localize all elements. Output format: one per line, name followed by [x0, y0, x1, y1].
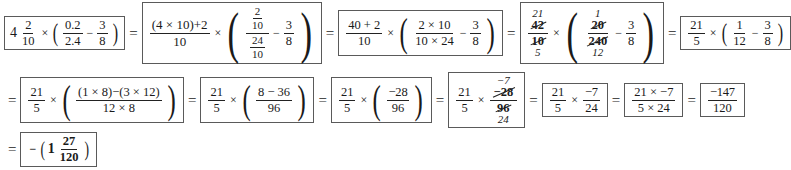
mixed-whole: 1 — [48, 142, 56, 156]
step-box-12: −147 120 — [700, 83, 745, 118]
equals-sign: = — [125, 26, 141, 41]
parenthesis-group: ( 8 − 36 96 ) — [240, 80, 309, 120]
cancelled-fraction-42-over-10: 21 42 10 5 — [528, 8, 549, 58]
frac-denominator: 10 — [250, 48, 265, 60]
step-box-6: 21 5 × ( (1 × 8)−(3 × 12) 12 × 8 ) — [20, 77, 184, 123]
paren-open-icon: ( — [41, 138, 46, 160]
frac-denominator: 96 — [266, 101, 283, 115]
frac-denominator: 120 — [58, 150, 81, 164]
paren-open-icon: ( — [566, 5, 578, 61]
complex-numerator: 2 10 — [246, 6, 269, 33]
struck-value: 10 — [531, 35, 546, 48]
minus-operator: − — [458, 27, 469, 39]
struck-value: −28 — [493, 86, 515, 99]
frac-numerator: 2 — [253, 6, 263, 19]
replacement-value: 5 — [535, 47, 541, 58]
cancellation-stack: −7 −28 — [493, 75, 515, 99]
paren-close-icon: ) — [301, 5, 313, 61]
mixed-denominator: 10 — [20, 34, 37, 48]
frac-denominator: 5 — [553, 101, 563, 115]
frac-denominator: 10 — [250, 19, 265, 31]
minus-operator: − — [613, 27, 624, 39]
frac-denominator: 10 × 24 — [413, 34, 455, 48]
paren-open-icon: ( — [228, 5, 240, 61]
times-operator: × — [47, 94, 60, 106]
mixed-number-4-2-10: 4 2 10 — [10, 19, 39, 48]
struck-value: 42 — [531, 19, 546, 32]
times-operator: × — [227, 94, 240, 106]
complex-fraction: 2 10 24 10 — [246, 6, 269, 60]
parenthesis-group: ( −28 96 ) — [370, 80, 426, 120]
frac-numerator: 21 — [339, 86, 356, 101]
final-answer-box: − ( 1 27 120 ) — [20, 132, 96, 167]
times-operator: × — [550, 27, 563, 39]
equals-sign: = — [664, 26, 680, 41]
frac-numerator: 21 — [28, 86, 45, 101]
step-box-8: 21 5 × ( −28 96 ) — [331, 77, 432, 123]
frac-numerator: −28 — [387, 86, 410, 101]
replacement-value: 24 — [498, 114, 509, 125]
paren-close-icon: ) — [643, 5, 655, 61]
paren-close-icon: ) — [112, 20, 117, 46]
equals-sign: = — [683, 93, 699, 108]
frac-numerator: (1 × 8)−(3 × 12) — [76, 86, 162, 101]
paren-open-icon: ( — [53, 20, 58, 46]
equals-sign: = — [322, 26, 338, 41]
parenthesis-group: ( 0.2 2.4 − 3 8 ) — [51, 19, 119, 48]
frac-numerator: 1 — [734, 19, 744, 34]
frac-numerator: 21 — [550, 86, 567, 101]
equals-sign: = — [432, 93, 448, 108]
times-operator: × — [212, 27, 225, 39]
parenthesis-group: ( 1 20 240 — [563, 5, 658, 61]
frac-denominator: 120 — [711, 101, 734, 115]
final-mixed-number: 1 27 120 — [48, 135, 83, 164]
parenthesis-group: ( 2 × 10 10 × 24 − 3 8 ) — [397, 13, 497, 53]
frac-numerator: −7 — [583, 86, 600, 101]
paren-open-icon: ( — [62, 80, 70, 120]
cancelled-fraction-20-over-240: 1 20 240 12 — [584, 8, 611, 58]
frac-denominator: 24 — [583, 101, 600, 115]
frac-numerator: 21 × −7 — [632, 86, 675, 101]
parenthesis-group: ( 1 12 − 3 8 ) — [720, 19, 785, 48]
parenthesis-group: ( (1 × 8)−(3 × 12) 12 × 8 ) — [60, 80, 178, 120]
solution-row-1: 4 2 10 × ( 0.2 2.4 − — [4, 2, 791, 64]
times-operator: × — [384, 27, 397, 39]
cancelled-fraction-28-over-96: −7 −28 96 24 — [490, 75, 518, 125]
struck-value: 240 — [587, 35, 608, 48]
frac-numerator: 3 — [626, 19, 636, 34]
frac-denominator: 10 — [356, 34, 373, 48]
frac-denominator: 12 — [731, 34, 748, 48]
complex-denominator: 24 10 — [246, 34, 269, 60]
paren-open-icon: ( — [721, 20, 726, 46]
frac-denominator: 8 — [470, 34, 480, 48]
mixed-whole: 4 — [10, 26, 18, 40]
frac-denominator: 8 — [284, 34, 294, 48]
improper-conversion-fraction: (4 × 10)+2 10 — [150, 18, 210, 48]
step-box-11: 21 × −7 5 × 24 — [624, 83, 683, 118]
paren-close-icon: ) — [415, 80, 423, 120]
equals-sign: = — [314, 93, 330, 108]
cancellation-stack: 240 12 — [587, 35, 608, 59]
minus-operator: − — [750, 27, 761, 39]
paren-open-icon: ( — [373, 80, 381, 120]
minus-operator: − — [271, 27, 282, 39]
paren-close-icon: ) — [85, 138, 90, 160]
parenthesis-group: ( 2 10 24 — [224, 5, 315, 61]
frac-denominator: 5 — [212, 101, 222, 115]
paren-close-icon: ) — [167, 80, 175, 120]
equals-sign: = — [184, 93, 200, 108]
solution-row-2: = 21 5 × ( (1 × 8)−(3 × 12) 12 × 8 — [4, 72, 745, 128]
step-box-7: 21 5 × ( 8 − 36 96 ) — [200, 77, 314, 123]
times-operator: × — [707, 27, 720, 39]
equals-sign: = — [608, 93, 624, 108]
frac-numerator: 40 + 2 — [346, 19, 382, 34]
frac-denominator: 8 — [626, 34, 636, 48]
struck-value: 20 — [591, 19, 606, 32]
paren-open-icon: ( — [242, 80, 250, 120]
times-operator: × — [357, 94, 370, 106]
frac-numerator: 2 × 10 — [416, 19, 452, 34]
frac-numerator: 21 — [688, 19, 705, 34]
frac-numerator: 24 — [250, 35, 265, 48]
equals-sign: = — [503, 26, 519, 41]
paren-close-icon: ) — [298, 80, 306, 120]
